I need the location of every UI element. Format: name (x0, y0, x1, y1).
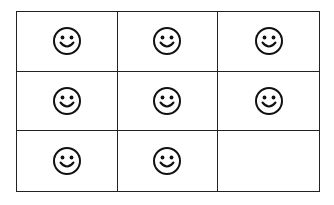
grid-cell-smiley (218, 12, 319, 72)
smiley-icon (152, 26, 182, 56)
smiley-icon (254, 86, 284, 116)
grid-cell-smiley (118, 12, 219, 72)
smiley-icon (152, 146, 182, 176)
grid-cell-empty (218, 131, 319, 191)
smiley-icon (52, 26, 82, 56)
smiley-grid (16, 11, 320, 192)
smiley-icon (152, 86, 182, 116)
grid-cell-smiley (17, 12, 118, 72)
grid-cell-smiley (17, 72, 118, 132)
grid-cell-smiley (17, 131, 118, 191)
grid-cell-smiley (118, 72, 219, 132)
grid-cell-smiley (118, 131, 219, 191)
smiley-icon (254, 26, 284, 56)
grid-cell-smiley (218, 72, 319, 132)
smiley-icon (52, 146, 82, 176)
smiley-icon (52, 86, 82, 116)
